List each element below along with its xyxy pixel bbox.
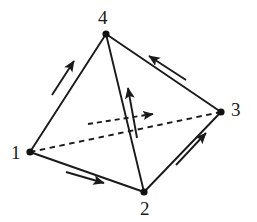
edge-3-4 [106,34,221,112]
vertex-label-3: 3 [231,100,241,119]
vertex-label-2: 2 [140,199,150,218]
orientation-arrow-group [52,56,206,183]
vertex-dot-3 [217,108,224,115]
edge-1-4 [30,34,106,152]
orientation-arrow-2-3 [176,133,206,165]
vertex-label-1: 1 [11,143,21,162]
edge-1-2 [30,152,144,192]
vertex-label-4: 4 [98,8,108,27]
edge-2-4 [106,34,144,192]
edge-2-3 [144,112,221,192]
vertex-dot-2 [140,188,147,195]
tetrahedron-graphic [0,0,257,222]
vertex-dot-1 [26,148,33,155]
vertex-dot-4 [102,30,109,37]
tetrahedron-diagram: 1 2 3 4 [0,0,257,222]
edge-group [30,34,221,192]
orientation-arrow-1-2 [66,172,104,183]
orientation-arrow-1-3 [88,114,153,124]
